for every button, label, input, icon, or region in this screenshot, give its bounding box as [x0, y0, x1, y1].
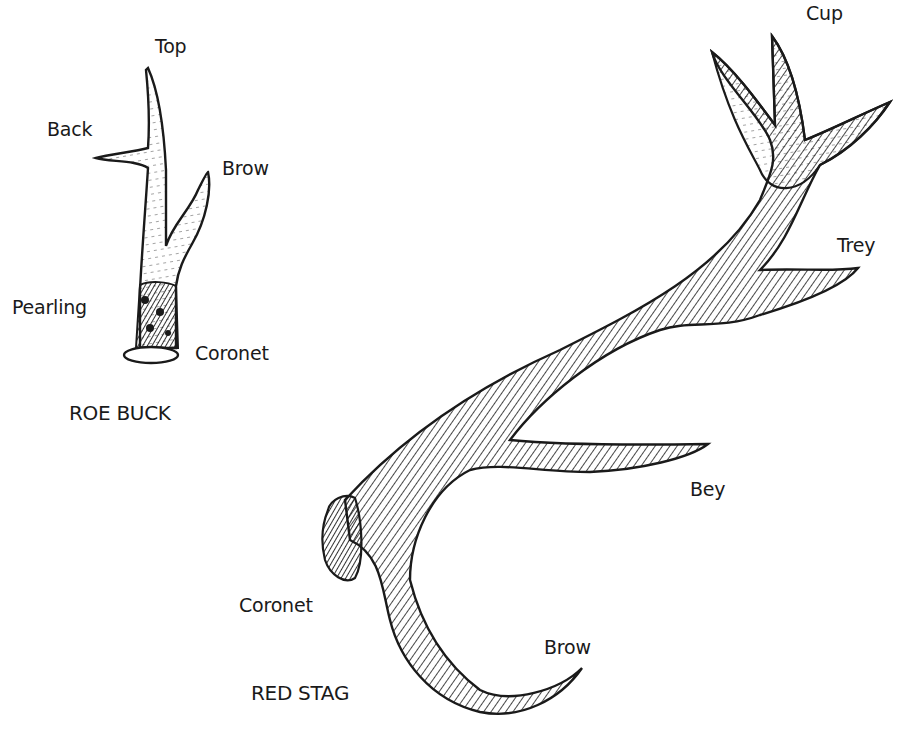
- roe-label-coronet: Coronet: [195, 342, 269, 364]
- stag-label-brow: Brow: [544, 636, 591, 658]
- red-stag-antler: [322, 36, 890, 714]
- roe-label-brow: Brow: [222, 157, 269, 179]
- roe-buck-antler: [96, 68, 209, 363]
- roe-label-top: Top: [155, 35, 186, 57]
- roe-label-back: Back: [47, 118, 92, 140]
- stag-label-cup: Cup: [806, 2, 843, 24]
- red-stag-caption: RED STAG: [251, 681, 349, 705]
- stag-label-trey: Trey: [837, 234, 875, 256]
- roe-buck-caption: ROE BUCK: [69, 401, 171, 425]
- stag-label-coronet: Coronet: [239, 594, 313, 616]
- antler-diagram: Top Back Brow Pearling Coronet ROE BUCK …: [0, 0, 903, 731]
- roe-label-pearling: Pearling: [12, 296, 87, 318]
- antler-illustrations: [0, 0, 903, 731]
- stag-label-bey: Bey: [690, 478, 725, 500]
